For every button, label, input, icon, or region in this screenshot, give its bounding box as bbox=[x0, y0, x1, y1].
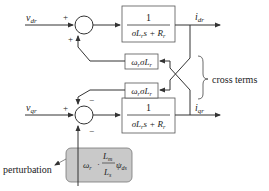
curly-brace-icon bbox=[198, 56, 208, 99]
control-block-diagram: vdr + + 1 σLrs + Rr idr vqr + − − 1 σLrs… bbox=[0, 0, 269, 191]
q-axis-path: vqr + − − 1 σLrs + Rr iqr bbox=[25, 95, 220, 136]
cross-terms-label: cross terms bbox=[212, 74, 257, 85]
sum-q-sign-feedback: − bbox=[89, 95, 94, 105]
output-idr-label: idr bbox=[195, 11, 204, 24]
tf-d-numerator: 1 bbox=[146, 12, 151, 23]
tf-d-denominator: σLrs + Rr bbox=[132, 28, 166, 39]
cross-block-upper-label: ωrσLr bbox=[131, 57, 152, 68]
perturbation-label: perturbation bbox=[3, 164, 52, 175]
perturbation-annotation: ωr · Lm Ls ψds perturbation bbox=[3, 126, 132, 186]
upper-block-to-sum-d bbox=[78, 36, 125, 61]
sum-q-sign-input: + bbox=[63, 103, 68, 113]
summing-junction-d bbox=[75, 16, 93, 34]
perturbation-pointer-arrow bbox=[55, 159, 66, 165]
lower-block-to-sum-q bbox=[78, 90, 125, 104]
cross-block-lower-label: ωrσLr bbox=[131, 86, 152, 97]
perturbation-dot: · bbox=[97, 159, 100, 169]
sum-d-sign-input: + bbox=[63, 12, 68, 22]
summing-junction-q bbox=[75, 106, 93, 124]
sum-q-sign-perturbation: − bbox=[89, 126, 94, 136]
sum-d-sign-feedback: + bbox=[68, 34, 73, 44]
input-vdr-label: vdr bbox=[26, 12, 37, 25]
cross-terms-annotation: cross terms bbox=[198, 56, 257, 99]
tf-q-denominator: σLrs + Rr bbox=[132, 119, 166, 130]
d-axis-path: vdr + + 1 σLrs + Rr idr bbox=[25, 6, 220, 44]
input-vqr-label: vqr bbox=[26, 102, 37, 115]
output-iqr-label: iqr bbox=[195, 102, 204, 115]
tf-q-numerator: 1 bbox=[146, 102, 151, 113]
